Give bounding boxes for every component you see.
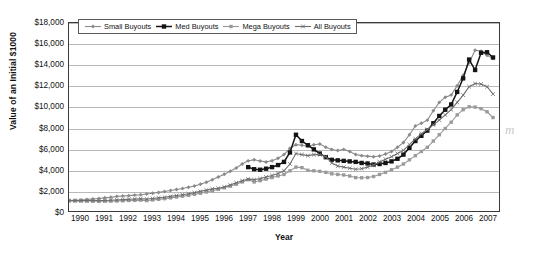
legend-item-1: Med Buyouts (153, 22, 220, 31)
data-point-square-small (318, 170, 321, 173)
data-point-square-small (408, 158, 411, 161)
data-point-square-small (414, 154, 417, 157)
series-line (69, 107, 493, 202)
data-point-square-small (324, 171, 327, 174)
legend-marker-square-small-icon (222, 22, 240, 31)
data-point-square-filled (479, 51, 483, 55)
x-tick-label: 2002 (359, 214, 377, 223)
data-point-square-small (485, 110, 488, 113)
data-point-square-small (300, 166, 303, 169)
data-point-square-small (384, 171, 387, 174)
series-3 (69, 82, 495, 203)
data-point-diamond (216, 175, 220, 179)
plot-area (68, 22, 500, 212)
data-point-square-filled (467, 57, 471, 61)
y-tick-label: $2,000 (39, 186, 64, 195)
data-point-x (449, 108, 453, 112)
data-point-square-filled (336, 158, 340, 162)
y-tick-label: $8,000 (39, 123, 64, 132)
data-point-diamond (121, 194, 125, 198)
data-point-square-small (312, 169, 315, 172)
data-point-square-small (336, 173, 339, 176)
data-point-square-small (479, 107, 482, 110)
x-tick-label: 2001 (335, 214, 353, 223)
data-point-square-filled (449, 102, 453, 106)
data-point-diamond (360, 154, 364, 158)
data-point-diamond (270, 159, 274, 163)
x-axis-tick-labels: 1990199119921993199419951996199719981999… (68, 214, 500, 228)
x-tick-label: 1999 (287, 214, 305, 223)
legend-item-0: Small Buyouts (82, 22, 153, 31)
y-tick-label: $14,000 (34, 60, 64, 69)
data-point-diamond (264, 160, 268, 164)
data-point-diamond (419, 121, 423, 125)
data-point-square-filled (312, 147, 316, 151)
data-point-square-small (450, 121, 453, 124)
y-tick-label: $4,000 (39, 165, 64, 174)
legend-marker-diamond-icon (84, 22, 102, 31)
data-point-diamond (300, 143, 304, 147)
data-point-square-filled (383, 161, 387, 165)
data-point-square-filled (300, 139, 304, 143)
x-tick-label: 1997 (239, 214, 257, 223)
data-point-diamond (342, 147, 346, 151)
data-point-x (461, 93, 465, 97)
data-point-square-filled (365, 161, 369, 165)
data-point-x (455, 100, 459, 104)
data-point-diamond (115, 194, 119, 198)
data-point-square-small (366, 176, 369, 179)
data-point-square-small (402, 162, 405, 165)
x-axis-title: Year (68, 232, 500, 242)
x-tick-label: 2000 (311, 214, 329, 223)
x-tick-label: 1998 (263, 214, 281, 223)
data-point-square-small (288, 169, 291, 172)
data-point-square-filled (395, 157, 399, 161)
data-point-square-small (230, 25, 233, 28)
y-tick-label: $16,000 (34, 39, 64, 48)
data-point-square-small (396, 165, 399, 168)
data-point-diamond (204, 180, 208, 184)
data-point-x (437, 118, 441, 122)
legend-item-2: Mega Buyouts (220, 22, 291, 31)
data-point-square-filled (353, 160, 357, 164)
data-point-diamond (366, 154, 370, 158)
legend-marker-square-filled-icon (155, 22, 173, 31)
data-point-diamond (157, 190, 161, 194)
y-tick-label: $6,000 (39, 144, 64, 153)
y-tick-label: $10,000 (34, 102, 64, 111)
data-point-square-filled (342, 159, 346, 163)
data-point-square-small (282, 173, 285, 176)
data-point-diamond (163, 189, 167, 193)
x-tick-label: 1993 (143, 214, 161, 223)
data-point-square-filled (288, 150, 292, 154)
data-point-diamond (145, 192, 149, 196)
data-point-square-filled (348, 159, 352, 163)
data-point-diamond (222, 172, 226, 176)
data-point-square-filled (473, 68, 477, 72)
data-point-square-filled (389, 159, 393, 163)
data-point-diamond (91, 25, 95, 29)
data-point-square-small (360, 176, 363, 179)
data-point-x (467, 85, 471, 89)
data-point-square-filled (276, 163, 280, 167)
data-point-diamond (169, 189, 173, 193)
data-point-square-small (348, 174, 351, 177)
x-tick-label: 1991 (95, 214, 113, 223)
data-point-square-filled (294, 133, 298, 137)
data-point-diamond (192, 184, 196, 188)
legend-label: All Buyouts (314, 22, 351, 31)
data-point-x (491, 92, 495, 96)
data-point-square-small (378, 173, 381, 176)
data-point-diamond (378, 154, 382, 158)
data-point-square-filled (461, 76, 465, 80)
data-point-square-filled (359, 161, 363, 165)
data-point-x (443, 113, 447, 117)
data-point-square-filled (455, 90, 459, 94)
chart-figure: Value of an Initial $1000 $18,000$16,000… (0, 0, 552, 253)
data-point-square-small (330, 172, 333, 175)
series-lines (69, 23, 499, 211)
series-line (248, 52, 493, 170)
data-point-square-filled (162, 24, 166, 28)
data-point-square-filled (246, 165, 250, 169)
data-point-square-small (390, 168, 393, 171)
